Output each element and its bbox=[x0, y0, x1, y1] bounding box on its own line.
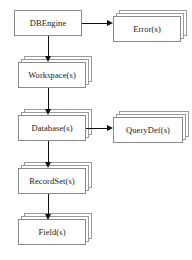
node-label: Field(s) bbox=[19, 227, 85, 237]
node-box-front: Field(s) bbox=[18, 219, 86, 245]
edge-shaft bbox=[82, 23, 108, 24]
node-querydefs[interactable]: QueryDef(s) bbox=[107, 111, 189, 149]
arrowhead-down-icon bbox=[45, 214, 51, 220]
diagram-canvas: DBEngine Error(s) Workspace(s) Database(… bbox=[0, 0, 192, 260]
edge-recordsets-to-fields bbox=[44, 194, 52, 222]
edge-shaft bbox=[48, 194, 49, 216]
node-label: Workspace(s) bbox=[19, 70, 85, 80]
edge-shaft bbox=[48, 36, 49, 58]
arrowhead-down-icon bbox=[45, 162, 51, 168]
node-databases[interactable]: Database(s) bbox=[12, 109, 92, 147]
node-box-front: Workspace(s) bbox=[18, 62, 86, 88]
node-label: QueryDef(s) bbox=[114, 125, 182, 135]
arrowhead-down-icon bbox=[45, 56, 51, 62]
node-label: DBEngine bbox=[15, 18, 81, 28]
edge-databases-to-querydefs bbox=[86, 124, 118, 132]
node-box-front: Error(s) bbox=[113, 16, 181, 42]
edge-shaft bbox=[48, 141, 49, 164]
node-box-front: DBEngine bbox=[14, 10, 82, 36]
node-label: Error(s) bbox=[114, 24, 180, 34]
edge-workspaces-to-databases bbox=[44, 88, 52, 117]
arrowhead-right-icon bbox=[107, 20, 113, 26]
edge-databases-to-recordsets bbox=[44, 141, 52, 170]
edge-shaft bbox=[86, 128, 108, 129]
node-box-front: Database(s) bbox=[18, 115, 86, 141]
node-errors[interactable]: Error(s) bbox=[107, 10, 187, 48]
edge-shaft bbox=[48, 88, 49, 111]
node-box-front: QueryDef(s) bbox=[113, 117, 183, 143]
node-fields[interactable]: Field(s) bbox=[12, 213, 92, 251]
node-label: Database(s) bbox=[19, 123, 85, 133]
edge-dbengine-to-errors bbox=[82, 19, 114, 27]
edge-dbengine-to-workspaces bbox=[44, 36, 52, 64]
arrowhead-right-icon bbox=[107, 125, 113, 131]
node-dbengine[interactable]: DBEngine bbox=[14, 10, 82, 36]
node-label: RecordSet(s) bbox=[19, 176, 85, 186]
node-recordsets[interactable]: RecordSet(s) bbox=[12, 162, 92, 200]
arrowhead-down-icon bbox=[45, 109, 51, 115]
node-box-front: RecordSet(s) bbox=[18, 168, 86, 194]
node-workspaces[interactable]: Workspace(s) bbox=[12, 56, 92, 94]
